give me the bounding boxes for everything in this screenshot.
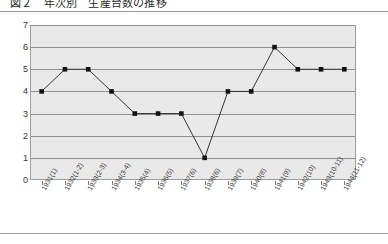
divider-top [0, 11, 388, 12]
gridline [31, 69, 355, 70]
page-title: 図２ 年次別 生産台数の推移 [10, 0, 167, 10]
y-axis-tick-label: 3 [2, 110, 28, 119]
gridline [31, 47, 355, 48]
gridline [31, 114, 355, 115]
chart-page: 図２ 年次別 生産台数の推移 01234567 1931(1)1932(1-2)… [0, 0, 388, 244]
divider-bottom [0, 233, 388, 234]
y-axis-tick-label: 5 [2, 65, 28, 74]
y-axis-tick-label: 2 [2, 132, 28, 141]
y-axis: 01234567 [0, 25, 28, 180]
y-axis-tick-label: 6 [2, 43, 28, 52]
gridline [31, 158, 355, 159]
y-axis-tick-label: 1 [2, 154, 28, 163]
gridline [31, 136, 355, 137]
plot-area [30, 25, 356, 180]
gridline [31, 25, 355, 26]
y-axis-tick-label: 7 [2, 21, 28, 30]
page-title-strip: 図２ 年次別 生産台数の推移 [0, 0, 388, 11]
gridline [31, 91, 355, 92]
y-axis-tick-label: 4 [2, 87, 28, 96]
y-axis-tick-label: 0 [2, 176, 28, 185]
